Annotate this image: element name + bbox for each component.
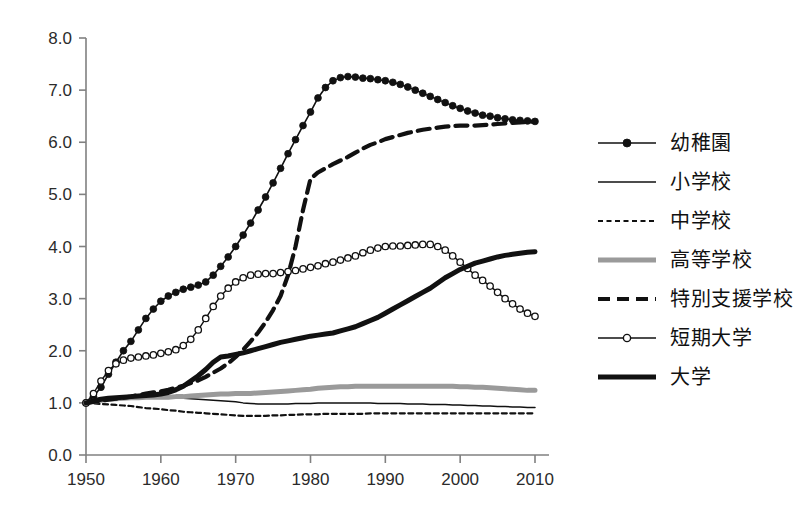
data-point-marker <box>105 367 111 373</box>
data-point-marker <box>509 301 515 307</box>
series-line-6 <box>86 252 535 403</box>
legend-swatch-thick-black-icon <box>596 368 658 386</box>
data-point-marker <box>345 255 351 261</box>
data-point-marker <box>157 298 164 305</box>
data-point-marker <box>315 95 322 102</box>
data-point-marker <box>449 102 456 109</box>
data-point-marker <box>277 269 283 275</box>
data-point-marker <box>307 109 314 116</box>
data-point-marker <box>382 77 389 84</box>
y-tick-label: 4.0 <box>48 238 72 257</box>
data-point-marker <box>270 270 276 276</box>
data-point-marker <box>285 150 292 157</box>
data-point-marker <box>292 136 299 143</box>
data-point-marker <box>479 112 486 119</box>
y-tick-label: 8.0 <box>48 29 72 48</box>
legend-swatch-thin-line-open-marker-icon <box>596 329 658 347</box>
legend-item-4[interactable]: 特別支援学校 <box>596 284 793 314</box>
data-point-marker <box>435 243 441 249</box>
data-point-marker <box>337 74 344 81</box>
chart-canvas: 0.01.02.03.04.05.06.07.08.0 195019601970… <box>0 0 620 517</box>
data-point-marker <box>532 313 538 319</box>
legend-item-3[interactable]: 高等学校 <box>596 245 793 275</box>
line-chart-plot: 0.01.02.03.04.05.06.07.08.0 195019601970… <box>0 0 620 517</box>
data-point-marker <box>479 277 485 283</box>
series-line-4 <box>86 121 535 402</box>
data-point-marker <box>502 115 509 122</box>
data-point-marker <box>457 259 463 265</box>
data-point-marker <box>464 108 471 115</box>
data-point-marker <box>330 77 337 84</box>
data-point-marker <box>277 165 284 172</box>
data-point-marker <box>262 194 269 201</box>
y-tick-label: 3.0 <box>48 290 72 309</box>
data-point-marker <box>150 352 156 358</box>
legend-item-6[interactable]: 大学 <box>596 362 793 392</box>
legend-label: 高等学校 <box>670 250 752 270</box>
data-point-marker <box>494 289 500 295</box>
data-point-marker <box>412 242 418 248</box>
legend-label: 特別支援学校 <box>670 289 793 309</box>
data-point-marker <box>127 338 134 345</box>
data-point-marker <box>404 84 411 91</box>
data-point-marker <box>120 357 126 363</box>
series-path <box>86 121 535 402</box>
data-point-marker <box>225 285 231 291</box>
data-point-marker <box>270 180 277 187</box>
data-point-marker <box>98 378 104 384</box>
x-tick-label: 1990 <box>366 470 404 489</box>
data-point-marker <box>337 257 343 263</box>
data-point-marker <box>427 93 434 100</box>
x-tick-label: 1950 <box>67 470 105 489</box>
data-point-marker <box>150 306 157 313</box>
legend-item-0[interactable]: 幼稚園 <box>596 128 793 158</box>
legend-swatch-fine-dotted-icon <box>596 212 658 230</box>
data-point-marker <box>143 353 149 359</box>
data-point-marker <box>427 241 433 247</box>
legend-item-1[interactable]: 小学校 <box>596 167 793 197</box>
data-point-marker <box>218 293 224 299</box>
data-point-marker <box>180 286 187 293</box>
chart-legend: 幼稚園小学校中学校高等学校特別支援学校短期大学大学 <box>596 128 793 392</box>
legend-swatch-thin-line-icon <box>596 173 658 191</box>
data-point-marker <box>374 76 381 83</box>
data-point-marker <box>135 354 141 360</box>
data-point-marker <box>232 279 238 285</box>
data-point-marker <box>300 266 306 272</box>
x-tick-label: 1960 <box>142 470 180 489</box>
data-point-marker <box>187 284 194 291</box>
x-tick-label: 2000 <box>441 470 479 489</box>
data-point-marker <box>487 283 493 289</box>
data-point-marker <box>90 390 96 396</box>
legend-label: 中学校 <box>670 211 732 231</box>
data-point-marker <box>210 303 216 309</box>
data-point-marker <box>322 261 328 267</box>
data-point-marker <box>345 73 352 80</box>
data-point-marker <box>397 243 403 249</box>
data-point-marker <box>487 113 494 120</box>
legend-swatch-thin-line-filled-marker-icon <box>596 134 658 152</box>
data-point-marker <box>210 272 217 279</box>
data-point-marker <box>502 295 508 301</box>
data-point-marker <box>232 243 239 250</box>
data-point-marker <box>247 220 254 227</box>
data-point-marker <box>360 250 366 256</box>
data-point-marker <box>397 81 404 88</box>
data-point-marker <box>315 263 321 269</box>
legend-item-5[interactable]: 短期大学 <box>596 323 793 353</box>
data-point-marker <box>434 96 441 103</box>
data-point-marker <box>517 306 523 312</box>
data-point-marker <box>472 272 478 278</box>
data-point-marker <box>262 270 268 276</box>
legend-item-2[interactable]: 中学校 <box>596 206 793 236</box>
data-point-marker <box>442 247 448 253</box>
y-tick-label: 1.0 <box>48 394 72 413</box>
y-tick-label: 2.0 <box>48 342 72 361</box>
x-tick-label: 1970 <box>217 470 255 489</box>
data-point-marker <box>352 253 358 259</box>
data-point-marker <box>285 268 291 274</box>
x-tick-label: 1980 <box>292 470 330 489</box>
data-point-marker <box>420 241 426 247</box>
data-point-marker <box>240 275 246 281</box>
data-point-marker <box>255 271 261 277</box>
